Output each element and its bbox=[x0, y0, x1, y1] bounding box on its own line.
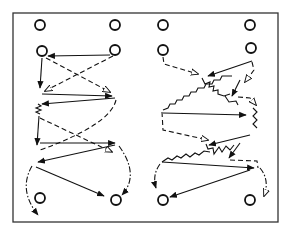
pass-arrow bbox=[36, 167, 104, 196]
dribble-zigzag bbox=[162, 151, 210, 162]
player-marker bbox=[110, 45, 120, 55]
drill-diagram bbox=[0, 0, 286, 233]
run-arrow bbox=[46, 58, 110, 92]
pass-arrow bbox=[40, 58, 42, 88]
dribble-zigzag bbox=[225, 96, 238, 105]
player-marker bbox=[245, 195, 255, 205]
field-frame bbox=[13, 13, 278, 222]
run-arrow bbox=[162, 112, 208, 140]
pass-arrow bbox=[38, 145, 115, 162]
player-marker bbox=[35, 193, 45, 203]
curved-run bbox=[260, 168, 266, 196]
player-marker bbox=[158, 195, 168, 205]
run-arrow bbox=[163, 57, 198, 74]
player-marker bbox=[158, 45, 168, 55]
player-marker bbox=[37, 46, 47, 56]
right-panel bbox=[155, 20, 267, 205]
pass-arrow bbox=[232, 80, 240, 96]
pass-arrow bbox=[229, 143, 240, 158]
player-marker bbox=[110, 20, 120, 30]
run-arrow bbox=[245, 62, 254, 82]
run-arrow bbox=[238, 97, 256, 105]
curved-run bbox=[155, 164, 160, 188]
player-marker bbox=[158, 20, 168, 30]
dribble-zigzag bbox=[206, 144, 234, 154]
pass-arrow bbox=[208, 61, 252, 76]
pass-arrow bbox=[37, 116, 39, 145]
player-marker bbox=[246, 43, 256, 53]
player-marker bbox=[35, 20, 45, 30]
curved-run bbox=[26, 166, 38, 215]
pass-arrow bbox=[163, 113, 246, 115]
player-marker bbox=[245, 20, 255, 30]
pass-arrow bbox=[42, 94, 112, 96]
dribble-zigzag bbox=[202, 78, 230, 96]
run-arrow bbox=[45, 56, 113, 91]
dribble-zigzag bbox=[36, 104, 41, 114]
pass-arrow bbox=[162, 162, 254, 168]
pass-arrow bbox=[42, 98, 115, 104]
player-marker bbox=[111, 195, 121, 205]
dribble-zigzag bbox=[253, 108, 257, 128]
dribble-zigzag bbox=[163, 76, 232, 110]
left-panel bbox=[26, 20, 130, 215]
curved-run bbox=[119, 146, 130, 195]
pass-arrow bbox=[209, 135, 250, 145]
run-arrow bbox=[40, 118, 112, 152]
pass-arrow bbox=[48, 55, 110, 56]
pass-arrow bbox=[170, 170, 250, 197]
